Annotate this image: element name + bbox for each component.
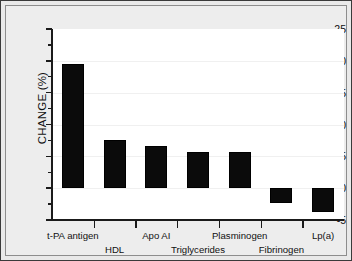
bar xyxy=(104,140,126,188)
gridline xyxy=(52,188,344,189)
x-tick-mark xyxy=(302,220,303,228)
x-tick-mark xyxy=(94,220,95,228)
x-tick-mark xyxy=(177,220,178,228)
bar xyxy=(270,188,292,203)
x-axis-label: Plasminogen xyxy=(212,230,267,241)
x-axis-label: Fibrinogen xyxy=(259,244,304,255)
x-tick-mark xyxy=(261,220,262,228)
gridline xyxy=(52,61,344,62)
bar xyxy=(62,64,84,188)
gridline xyxy=(52,93,344,94)
bar xyxy=(187,152,209,188)
figure-container: CHANGE (%) 2520151050-5 t-PA antigenHDLA… xyxy=(0,0,352,261)
x-axis-label: t-PA antigen xyxy=(47,230,99,241)
x-axis-label: HDL xyxy=(105,244,124,255)
bar xyxy=(229,152,251,188)
bar xyxy=(312,188,334,212)
x-tick-mark xyxy=(135,220,136,228)
x-axis-label: Apo AI xyxy=(142,230,170,241)
x-tick-mark xyxy=(219,220,220,228)
figure-panel: CHANGE (%) 2520151050-5 t-PA antigenHDLA… xyxy=(5,5,347,256)
y-axis-title: CHANGE (%) xyxy=(36,48,48,168)
y-axis-line xyxy=(51,29,53,221)
gridline xyxy=(52,125,344,126)
x-axis-label: Lp(a) xyxy=(312,230,334,241)
bar xyxy=(145,146,167,189)
plot-area xyxy=(52,29,344,220)
x-axis-label: Triglycerides xyxy=(171,244,225,255)
